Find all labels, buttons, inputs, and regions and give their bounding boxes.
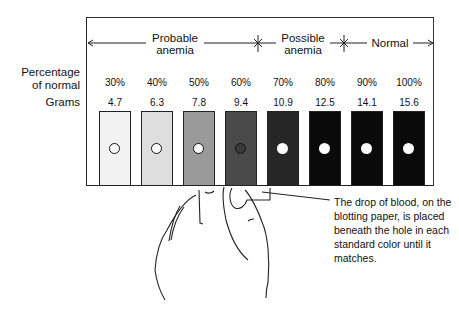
range-label-line: Probable: [148, 32, 202, 44]
percent-label: 90%: [347, 77, 387, 88]
range-label-line: Possible: [278, 32, 328, 44]
percent-label: 100%: [389, 77, 429, 88]
color-swatch: [393, 111, 425, 186]
row-label-line: of normal: [0, 79, 80, 92]
range-label-line: anemia: [278, 44, 328, 56]
swatch-hole-icon: [151, 143, 162, 154]
grams-label: 12.5: [305, 97, 345, 108]
color-swatch: [351, 111, 383, 186]
color-swatch: [225, 111, 257, 186]
percent-label: 80%: [305, 77, 345, 88]
grams-label: 6.3: [137, 97, 177, 108]
percent-label: 70%: [263, 77, 303, 88]
percent-label: 40%: [137, 77, 177, 88]
swatch-hole-icon: [235, 143, 246, 154]
caption: The drop of blood, on the blotting paper…: [334, 195, 459, 265]
grams-row-label: Grams: [0, 96, 80, 109]
swatch-hole-icon: [109, 143, 120, 154]
percent-label: 30%: [95, 77, 135, 88]
swatch-hole-icon: [319, 143, 330, 154]
color-swatch: [141, 111, 173, 186]
color-swatch: [183, 111, 215, 186]
range-label-line: anemia: [148, 44, 202, 56]
swatch-hole-icon: [277, 143, 288, 154]
color-swatch: [99, 111, 131, 186]
grams-label: 4.7: [95, 97, 135, 108]
percentage-row-label: Percentage of normal: [0, 66, 80, 92]
hands-illustration: [155, 187, 330, 300]
range-label-normal: Normal: [367, 37, 413, 49]
row-label-line: Percentage: [0, 66, 80, 79]
range-label-probable-anemia: Probable anemia: [146, 32, 204, 56]
swatch-hole-icon: [361, 143, 372, 154]
swatch-hole-icon: [403, 143, 414, 154]
swatch-hole-icon: [193, 143, 204, 154]
color-swatch: [309, 111, 341, 186]
range-label-line: Normal: [369, 37, 411, 49]
grams-label: 7.8: [179, 97, 219, 108]
grams-label: 15.6: [389, 97, 429, 108]
color-swatch: [267, 111, 299, 186]
range-label-possible-anemia: Possible anemia: [276, 32, 330, 56]
grams-label: 9.4: [221, 97, 261, 108]
percent-label: 60%: [221, 77, 261, 88]
grams-label: 14.1: [347, 97, 387, 108]
percent-label: 50%: [179, 77, 219, 88]
grams-label: 10.9: [263, 97, 303, 108]
